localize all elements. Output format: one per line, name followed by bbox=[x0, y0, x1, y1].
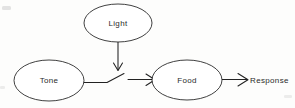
edge-food-to-response bbox=[222, 74, 248, 87]
edge-light-to-junction bbox=[114, 42, 123, 71]
edge-tone-to-junction bbox=[84, 74, 124, 83]
tone-link-line bbox=[84, 74, 124, 83]
scan-smudge-bottom-right bbox=[284, 95, 292, 98]
node-food[interactable]: Food bbox=[152, 60, 222, 100]
diagram-canvas: Light Tone Food Response bbox=[0, 0, 295, 108]
node-tone[interactable]: Tone bbox=[14, 60, 84, 101]
outcome-response-label: Response bbox=[250, 76, 289, 85]
scan-smudge-left-lower bbox=[0, 86, 5, 89]
node-light-label: Light bbox=[108, 19, 128, 28]
node-food-label: Food bbox=[177, 76, 197, 85]
conditioning-diagram-svg: Light Tone Food Response bbox=[0, 0, 295, 108]
scan-smudge-top-left bbox=[2, 6, 11, 10]
node-light[interactable]: Light bbox=[84, 4, 152, 42]
edge-junction-to-food bbox=[128, 74, 155, 86]
node-tone-label: Tone bbox=[40, 76, 59, 85]
